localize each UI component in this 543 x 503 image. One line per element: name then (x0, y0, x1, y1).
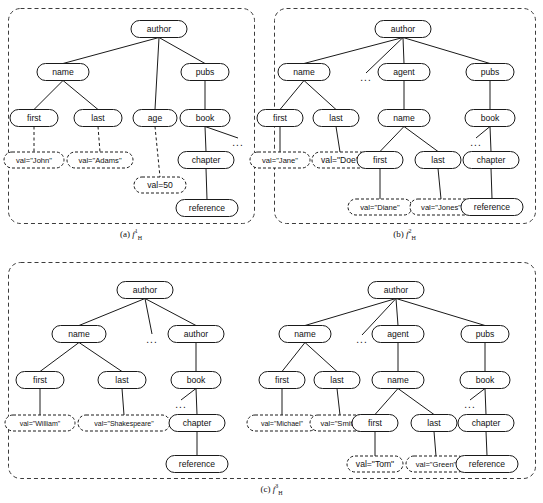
edge-author-to-name (63, 38, 159, 64)
node-label: name (393, 113, 415, 123)
node-label: chapter (192, 155, 221, 165)
edge-book-l-to-chapter-l (196, 389, 197, 415)
node-a-val-50[interactable]: val=50 (134, 177, 186, 193)
edge-name-r-to-first-r (282, 343, 305, 372)
node-a-first[interactable]: first (10, 110, 58, 127)
node-b-val-diane[interactable]: val="Diane" (348, 199, 412, 215)
book-r-ellipsis: ... (464, 399, 475, 410)
node-label: first (33, 375, 47, 385)
node-a-val-john[interactable]: val="John" (4, 152, 64, 168)
node-label: val="John" (16, 156, 52, 165)
node-label: author (133, 285, 158, 295)
node-b-book[interactable]: book (465, 110, 515, 127)
node-label: pubs (476, 329, 495, 339)
node-label: first (275, 375, 289, 385)
edge-author-r-to-pubs-r (396, 299, 485, 326)
node-a-book[interactable]: book (180, 110, 230, 127)
node-c-agent-r[interactable]: agent (372, 326, 424, 343)
figure-root: ...authornamepubsfirstlastagebookval="Jo… (0, 0, 543, 503)
node-c-reference-r[interactable]: reference (456, 456, 518, 473)
node-c-first-r2[interactable]: first (352, 415, 398, 432)
edge-author-r-to-name-r (305, 299, 396, 326)
node-b-reference[interactable]: reference (461, 199, 523, 216)
edge-chapter-r-to-reference-r (486, 432, 487, 456)
node-c-chapter-l[interactable]: chapter (169, 415, 225, 432)
node-label: book (481, 113, 500, 123)
node-b-val-jane[interactable]: val="Jane" (250, 152, 310, 168)
node-label: reference (474, 202, 511, 212)
node-b-agent[interactable]: agent (378, 64, 430, 81)
node-c-name-r2[interactable]: name (372, 372, 424, 389)
node-b-name2[interactable]: name (378, 110, 430, 127)
node-c-last-r[interactable]: last (314, 372, 360, 389)
edge-last-r2-to-val-green (434, 432, 436, 457)
edge-name-to-last (63, 81, 98, 110)
node-label: val="Doe" (321, 155, 359, 165)
node-c-name-r[interactable]: name (279, 326, 331, 343)
node-b-last[interactable]: last (313, 110, 359, 127)
node-a-age[interactable]: age (133, 110, 177, 127)
edge-author-to-name (304, 38, 403, 64)
node-label: name (52, 67, 74, 77)
panel-b-caption: (b) f2H (274, 228, 535, 241)
panel-c-caption: (c) f3H (8, 483, 535, 496)
node-c-author-l[interactable]: author (117, 282, 173, 299)
node-a-name[interactable]: name (37, 64, 89, 81)
node-c-first-r[interactable]: first (259, 372, 305, 389)
node-label: author (184, 329, 209, 339)
book-l-ellipsis: ... (175, 399, 186, 410)
node-label: last (330, 375, 344, 385)
node-b-first[interactable]: first (257, 110, 303, 127)
node-a-val-adams[interactable]: val="Adams" (67, 152, 133, 168)
node-label: reference (189, 203, 226, 213)
node-c-pubs-r[interactable]: pubs (461, 326, 509, 343)
panel-c-border (9, 263, 536, 479)
node-b-chapter[interactable]: chapter (463, 152, 519, 169)
node-b-name[interactable]: name (278, 64, 330, 81)
node-c-chapter-r[interactable]: chapter (458, 415, 514, 432)
node-c-author-r[interactable]: author (368, 282, 424, 299)
node-label: reference (179, 459, 216, 469)
node-b-last2[interactable]: last (415, 152, 461, 169)
edge-age-to-val-50 (155, 127, 160, 178)
node-label: agent (393, 67, 415, 77)
node-b-pubs[interactable]: pubs (466, 64, 514, 81)
node-a-author[interactable]: author (131, 21, 187, 38)
node-c-book-l[interactable]: book (171, 372, 221, 389)
node-label: book (187, 375, 206, 385)
edge-author-r-to-agent-r (396, 299, 398, 326)
node-label: author (384, 285, 409, 295)
node-c-book-r[interactable]: book (460, 372, 510, 389)
edge-last-to-val-adams (98, 127, 100, 153)
node-a-pubs[interactable]: pubs (181, 64, 229, 81)
node-a-chapter[interactable]: chapter (178, 152, 234, 169)
node-label: first (368, 418, 382, 428)
node-c-val-william[interactable]: val="William" (5, 415, 75, 431)
edge-chapter-to-reference (491, 169, 492, 199)
node-label: first (27, 113, 41, 123)
node-c-val-michael[interactable]: val="Michael" (247, 415, 317, 431)
node-label: last (427, 418, 441, 428)
node-c-first-l[interactable]: first (16, 372, 64, 389)
node-c-author-l2[interactable]: author (168, 326, 224, 343)
node-b-first2[interactable]: first (357, 152, 403, 169)
edge-chapter-to-reference (206, 169, 207, 200)
node-a-reference[interactable]: reference (176, 200, 238, 217)
panel-a-caption: (a) f1H (8, 228, 254, 241)
node-c-last-l[interactable]: last (98, 372, 146, 389)
node-c-last-r2[interactable]: last (411, 415, 457, 432)
node-c-val-shakespeare[interactable]: val="Shakespeare" (78, 415, 170, 431)
node-c-name-l[interactable]: name (52, 326, 106, 343)
node-a-last[interactable]: last (74, 110, 122, 127)
node-label: author (147, 24, 172, 34)
node-c-reference-l[interactable]: reference (166, 456, 228, 473)
node-b-author[interactable]: author (375, 21, 431, 38)
edge-name-to-first (280, 81, 304, 110)
edge-name-to-first (34, 81, 63, 110)
node-c-val-tom[interactable]: val="Tom" (347, 456, 403, 472)
edge-name-to-last (304, 81, 336, 110)
edge-author-to-pubs (403, 38, 490, 64)
book-ellipsis: ... (232, 137, 243, 148)
edge-author-to-age (155, 38, 159, 110)
node-label: val="Michael" (261, 420, 304, 427)
